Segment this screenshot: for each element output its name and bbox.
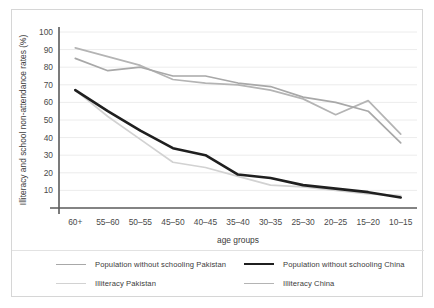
x-axis-title: age groups <box>217 235 259 245</box>
y-axis-tick-label: 100 <box>39 27 53 37</box>
y-axis-tick-label: 20 <box>44 168 54 178</box>
x-axis-tick-label: 60+ <box>68 217 82 227</box>
x-axis-tick-label: 20–25 <box>324 217 348 227</box>
legend-label-illiteracy-china: Illiteracy China <box>283 279 334 288</box>
line-chart: 10203040506070809010060+55–6050–5545–504… <box>12 10 424 250</box>
legend-swatch-illiteracy-pakistan <box>56 283 86 284</box>
legend-swatch-illiteracy-china <box>244 283 274 284</box>
x-axis-tick-label: 55–60 <box>96 217 120 227</box>
y-axis-tick-label: 40 <box>44 133 54 143</box>
y-axis-tick-label: 50 <box>44 115 54 125</box>
y-axis-title: Illiteracy and school non-attendance rat… <box>18 35 28 206</box>
legend-item-illiteracy-china: Illiteracy China <box>244 276 334 290</box>
legend-label-illiteracy-pakistan: Illiteracy Pakistan <box>95 279 156 288</box>
legend-swatch-population-without-schooling-china <box>244 263 274 265</box>
y-axis-tick-label: 70 <box>44 80 54 90</box>
chart-legend: Population without schooling Pakistan Il… <box>12 250 424 296</box>
y-axis-tick-label: 10 <box>44 185 54 195</box>
x-axis-tick-label: 40–45 <box>194 217 218 227</box>
legend-label-population-without-schooling-china: Population without schooling China <box>283 260 405 269</box>
chart-figure: 10203040506070809010060+55–6050–5545–504… <box>11 9 423 297</box>
legend-item-illiteracy-pakistan: Illiteracy Pakistan <box>56 276 156 290</box>
y-axis-tick-label: 60 <box>44 97 54 107</box>
legend-label-population-without-schooling-pakistan: Population without schooling Pakistan <box>95 260 226 269</box>
x-axis-tick-label: 10–15 <box>389 217 413 227</box>
x-axis-tick-label: 50–55 <box>129 217 153 227</box>
x-axis-tick-label: 30–35 <box>259 217 283 227</box>
plot-area: 10203040506070809010060+55–6050–5545–504… <box>12 10 424 250</box>
legend-item-population-without-schooling-china: Population without schooling China <box>244 257 405 271</box>
legend-item-population-without-schooling-pakistan: Population without schooling Pakistan <box>56 257 226 271</box>
y-axis-tick-label: 80 <box>44 62 54 72</box>
y-axis-tick-label: 90 <box>44 45 54 55</box>
series-line <box>75 58 400 142</box>
x-axis-tick-label: 45–50 <box>161 217 185 227</box>
x-axis-tick-label: 25–30 <box>291 217 315 227</box>
x-axis-tick-label: 15–20 <box>357 217 381 227</box>
y-axis-tick-label: 30 <box>44 150 54 160</box>
x-axis-tick-label: 35–40 <box>226 217 250 227</box>
legend-swatch-population-without-schooling-pakistan <box>56 264 86 265</box>
